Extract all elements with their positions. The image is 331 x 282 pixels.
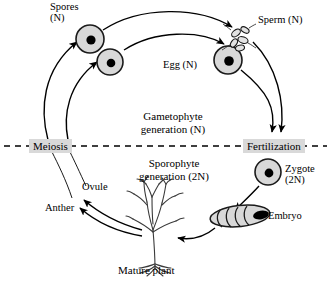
spore-cell-upper (76, 25, 104, 53)
label-ovule: Ovule (82, 181, 108, 192)
label-zygote: Zygote (2N) (285, 163, 315, 186)
spore-cell-lower (97, 49, 123, 75)
label-embryo: Embryo (268, 210, 302, 221)
label-sporophyte-generation: Sporophyte generation (2N) (116, 157, 232, 182)
label-egg: Egg (N) (163, 59, 197, 70)
label-anther: Anther (45, 202, 74, 213)
label-meiosis: Meiosis (29, 139, 72, 153)
arrow-spore-to-egg (124, 34, 224, 50)
arrow-spore-to-sperm (103, 12, 232, 30)
arrow-egg-to-fertilization (241, 70, 273, 132)
label-sperm: Sperm (N) (258, 14, 303, 25)
arrow-meiosis-to-spore-lower (66, 62, 97, 140)
arrow-embryo-to-mature-plant (178, 228, 215, 239)
arrow-meiosis-to-spore-upper (44, 42, 77, 140)
zygote-cell (255, 159, 281, 185)
label-fertilization: Fertilization (243, 139, 305, 153)
label-gametophyte-generation: Gametophyte generation (N) (118, 110, 228, 135)
label-spores: Spores (N) (50, 1, 79, 24)
arrow-sperm-to-fertilization (253, 42, 282, 132)
arrow-plant-to-anther (80, 208, 142, 236)
connector-anther-to-meiosis (52, 152, 72, 198)
label-mature-plant: Mature plant (118, 265, 175, 277)
embryo-structure (209, 202, 271, 229)
arrow-plant-to-ovule (84, 200, 142, 230)
mature-plant-sketch (126, 176, 184, 276)
plant-life-cycle-diagram: Spores (N) Sperm (N) Egg (N) Gametophyte… (0, 0, 331, 282)
